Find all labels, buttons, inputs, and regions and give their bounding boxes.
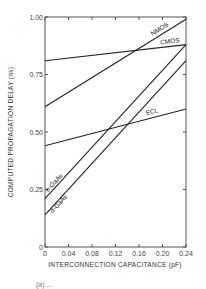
series-lines: NMOSCMOSECLe-GaAsd-GaAs [44,19,186,215]
plot-frame [45,17,186,247]
series-label-ecl: ECL [145,106,159,116]
x-axis-ticks: 00.040.080.120.160.200.24 [43,17,193,257]
chart: 00.250.500.751.00 00.040.080.120.160.200… [0,0,206,289]
series-label-e-gaas: e-GaAs [44,171,65,193]
x-tick-label: 0.04 [62,250,76,257]
y-tick-label: 0.75 [29,71,43,78]
y-tick-label: 0.50 [29,129,43,136]
series-line-nmos [45,19,186,106]
y-tick-label: 1.00 [29,14,43,21]
series-label-nmos: NMOS [149,20,170,37]
series-line-cmos [45,45,186,61]
y-axis-ticks: 00.250.500.751.00 [29,14,186,251]
x-tick-label: 0.20 [156,250,170,257]
y-axis-label: COMPUTED PROPAGATION DELAY (ns) [7,67,15,198]
figure-caption: (a) ... [36,281,52,289]
x-tick-label: 0.08 [85,250,99,257]
series-line-e-gaas [45,45,186,199]
x-tick-label: 0.24 [179,250,193,257]
series-label-d-gaas: d-GaAs [48,192,69,214]
x-tick-label: 0.12 [109,250,123,257]
x-tick-label: 0.16 [132,250,146,257]
y-tick-label: 0.25 [29,186,43,193]
x-tick-label: 0 [43,250,47,257]
series-line-d-gaas [45,61,186,215]
series-line-ecl [45,109,186,146]
series-label-cmos: CMOS [160,36,181,45]
x-axis-label: INTERCONNECTION CAPACITANCE (pF) [48,261,182,269]
